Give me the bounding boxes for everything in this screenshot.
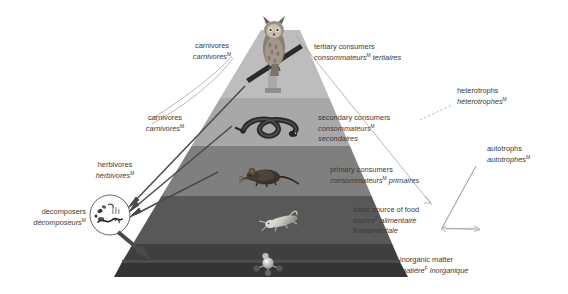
gender-marker: M: [130, 170, 134, 176]
label-tertiary-consumers-fr: consommateursM tertiaires: [314, 51, 401, 63]
label-carnivores-upper: carnivores carnivoresM: [176, 41, 248, 62]
label-autotrophs-en: autotrophs: [487, 144, 530, 153]
label-decomposers-fr: décomposeursM: [6, 216, 86, 228]
label-heterotrophs: heterotrophs hétérotrophesM: [457, 86, 507, 107]
label-inorganic-en: inorganic matter: [400, 255, 468, 264]
label-secondary-consumers: secondary consumers consommateursM secon…: [318, 113, 390, 144]
label-basic-source-fr: sourceF alimentaire: [353, 214, 419, 226]
label-secondary-consumers-fr: consommateursM: [318, 122, 390, 134]
label-inorganic-fr: matièreF inorganique: [400, 264, 468, 276]
label-secondary-consumers-en: secondary consumers: [318, 113, 390, 122]
pyramid-bands: [100, 28, 430, 284]
label-autotrophs: autotrophs autotrophesM: [487, 144, 530, 165]
gender-marker: M: [82, 217, 86, 223]
gender-marker: M: [180, 123, 184, 129]
label-carnivores-upper-fr: carnivoresM: [176, 50, 248, 62]
label-carnivores-lower: carnivores carnivoresM: [129, 113, 201, 134]
label-tertiary-consumers-en: tertiary consumers: [314, 42, 401, 51]
gender-marker: M: [526, 154, 530, 160]
label-herbivores-en: herbivores: [79, 160, 151, 169]
label-inorganic-matter: inorganic matter matièreF inorganique: [400, 255, 468, 276]
gender-marker: M: [503, 96, 507, 102]
label-basic-source-en: basic source of food: [353, 205, 419, 214]
label-heterotrophs-fr: hétérotrophesM: [457, 95, 507, 107]
bracket-autotrophs: [441, 166, 480, 232]
label-basic-source-of-food: basic source of food sourceF alimentaire…: [353, 205, 419, 236]
label-carnivores-lower-en: carnivores: [129, 113, 201, 122]
label-carnivores-lower-fr: carnivoresM: [129, 122, 201, 134]
label-basic-source-fr2: fondamentale: [353, 226, 419, 235]
label-decomposers-en: decomposers: [6, 207, 86, 216]
label-herbivores-fr: herbivoresM: [79, 169, 151, 181]
pyramid-graphic: [0, 0, 568, 294]
decomposers-circle: [90, 195, 130, 235]
label-heterotrophs-en: heterotrophs: [457, 86, 507, 95]
label-primary-consumers: primary consumers consommateursM primair…: [330, 165, 419, 186]
pyramid-base-front: [114, 262, 408, 277]
label-tertiary-consumers: tertiary consumers consommateursM tertia…: [314, 42, 401, 63]
label-decomposers: decomposers décomposeursM: [6, 207, 86, 228]
label-carnivores-upper-en: carnivores: [176, 41, 248, 50]
pyramid-base-top: [122, 260, 400, 263]
gender-marker: M: [227, 51, 231, 57]
label-primary-consumers-en: primary consumers: [330, 165, 419, 174]
label-herbivores: herbivores herbivoresM: [79, 160, 151, 181]
label-secondary-consumers-fr2: secondaires: [318, 134, 390, 143]
label-primary-consumers-fr: consommateursM primaires: [330, 174, 419, 186]
ecological-pyramid-figure: carnivores carnivoresM carnivores carniv…: [0, 0, 568, 294]
gender-marker: M: [371, 123, 375, 129]
label-autotrophs-fr: autotrophesM: [487, 153, 530, 165]
